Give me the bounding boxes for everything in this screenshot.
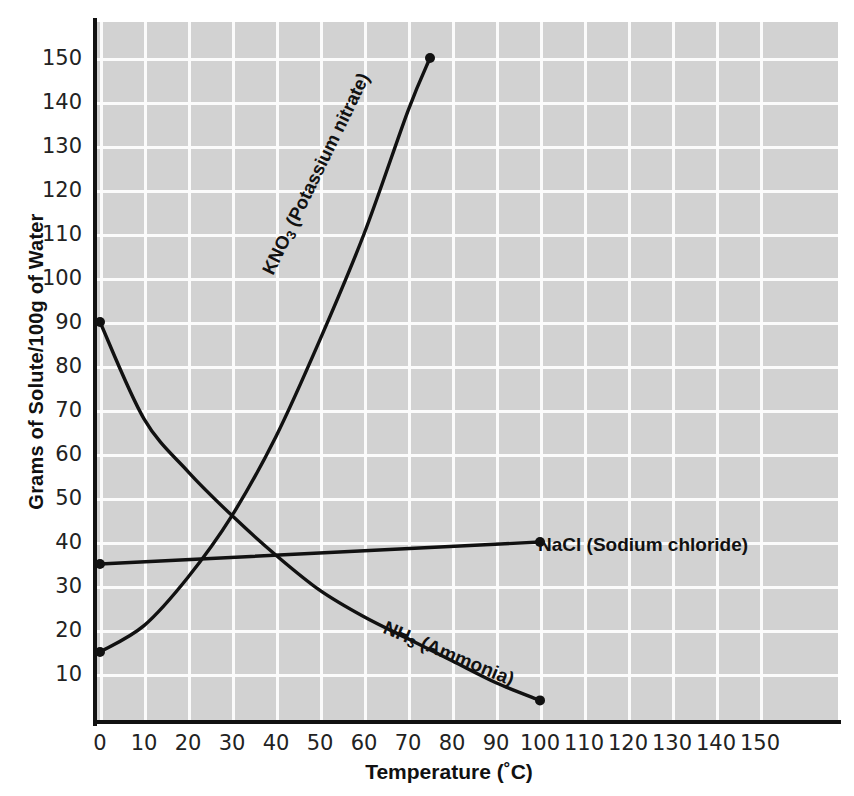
x-tick-label: 20 — [175, 731, 202, 755]
x-tick-label: 50 — [307, 731, 334, 755]
x-tick-label: 70 — [395, 731, 422, 755]
x-tick-label: 40 — [263, 731, 290, 755]
x-tick-label: 30 — [219, 731, 246, 755]
x-tick-label: 60 — [351, 731, 378, 755]
x-tick-label: 140 — [696, 731, 736, 755]
x-tick-label: 80 — [439, 731, 466, 755]
x-tick-label: 0 — [93, 731, 106, 755]
x-axis-title: Temperature (˚C) — [0, 760, 854, 784]
x-tick-label: 120 — [608, 731, 648, 755]
x-tick-label: 110 — [564, 731, 604, 755]
x-tick-label: 100 — [520, 731, 560, 755]
x-axis-tick-labels: 0102030405060708090100110120130140150 — [0, 0, 854, 796]
x-tick-label: 90 — [483, 731, 510, 755]
x-tick-label: 150 — [740, 731, 780, 755]
x-tick-label: 10 — [131, 731, 158, 755]
y-axis-title: Grams of Solute/100g of Water — [25, 62, 48, 662]
x-tick-label: 130 — [652, 731, 692, 755]
series-label-nacl: NaCl (Sodium chloride) — [538, 534, 748, 556]
solubility-chart-figure: 102030405060708090100110120130140150 010… — [0, 0, 854, 796]
